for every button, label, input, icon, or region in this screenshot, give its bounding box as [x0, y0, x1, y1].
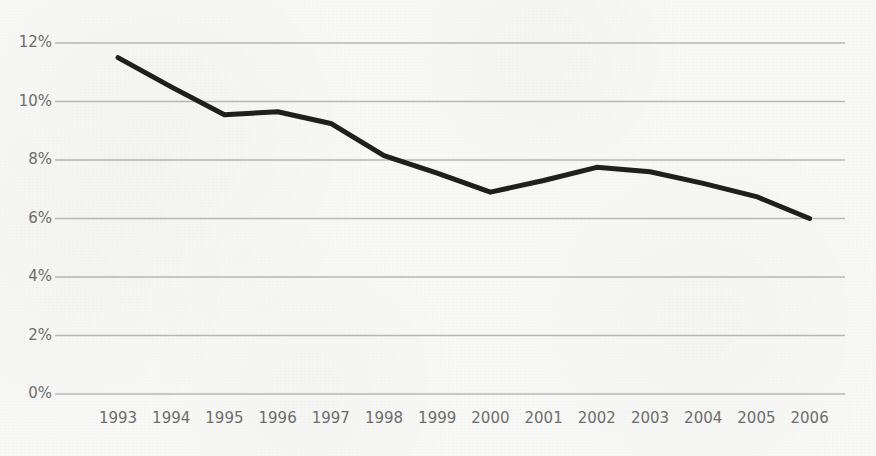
x-tick-label-2006: 2006	[783, 411, 837, 426]
x-tick-label-2004: 2004	[676, 411, 730, 426]
x-tick-label-1999: 1999	[410, 411, 464, 426]
x-tick-label-2003: 2003	[623, 411, 677, 426]
x-tick-label-1996: 1996	[251, 411, 305, 426]
x-axis-tick-labels: 1993199419951996199719981999200020012002…	[0, 0, 876, 456]
x-tick-label-2002: 2002	[570, 411, 624, 426]
x-tick-label-1998: 1998	[357, 411, 411, 426]
x-tick-label-2000: 2000	[463, 411, 517, 426]
x-tick-label-2001: 2001	[517, 411, 571, 426]
x-tick-label-1997: 1997	[304, 411, 358, 426]
x-tick-label-2005: 2005	[729, 411, 783, 426]
x-tick-label-1993: 1993	[91, 411, 145, 426]
x-tick-label-1995: 1995	[197, 411, 251, 426]
chart-page: 0%2%4%6%8%10%12% 19931994199519961997199…	[0, 0, 876, 456]
x-tick-label-1994: 1994	[144, 411, 198, 426]
